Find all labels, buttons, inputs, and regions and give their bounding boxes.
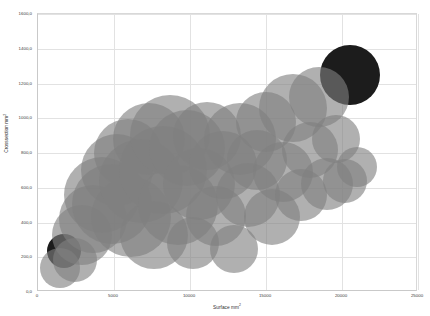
y-tick-label: 0,0 [26,289,32,294]
x-axis-title: Surface mm2 [37,303,417,310]
bubble-chart: 0,0200,0400,0600,0800,01000,01200,01400,… [0,0,430,316]
gridline-vertical [418,14,419,290]
x-tick-label: 20000 [335,293,347,298]
y-tick-label: 600,0 [21,184,32,189]
x-axis-tick-labels: 0500010000150002000025000 [37,293,417,303]
bubble-point [337,147,377,187]
x-tick-label: 15000 [259,293,271,298]
x-tick-label: 25000 [411,293,423,298]
y-tick-label: 400,0 [21,219,32,224]
y-tick-label: 1600,0 [19,11,32,16]
y-axis-title: Crosssection mm2 [3,93,10,173]
x-tick-label: 5000 [108,293,118,298]
y-tick-label: 1200,0 [19,80,32,85]
y-tick-label: 1400,0 [19,45,32,50]
y-tick-label: 200,0 [21,254,32,259]
bubble-series [38,14,416,290]
plot-area [37,13,417,291]
y-tick-label: 800,0 [21,150,32,155]
y-tick-label: 1000,0 [19,115,32,120]
x-tick-label: 10000 [183,293,195,298]
x-tick-label: 0 [36,293,38,298]
